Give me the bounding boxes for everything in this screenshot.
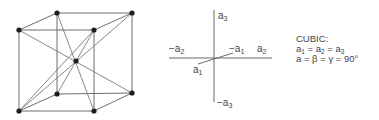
atom-front-top-right: [91, 27, 96, 32]
label-pos-a3: a3: [218, 10, 228, 22]
atom-front-top-left: [16, 27, 21, 32]
label-neg-a1: −a1: [229, 43, 244, 55]
axes-diagram: a3 −a3 −a2 a2 −a1 a1: [169, 10, 272, 109]
angle-equality: a = β = γ = 90°: [296, 54, 358, 64]
label-neg-a3: −a3: [217, 97, 232, 109]
cube-unit-cell: [16, 10, 134, 113]
label-neg-a2: −a2: [169, 43, 184, 55]
atom-back-top-left: [54, 10, 59, 15]
lattice-properties: CUBIC: a1 = a2 = a3 a = β = γ = 90°: [296, 34, 358, 64]
label-pos-a2: a2: [257, 43, 267, 55]
atom-front-bottom-left: [16, 108, 21, 113]
atom-back-top-right: [129, 10, 134, 15]
atom-back-bottom-right: [129, 90, 134, 95]
atom-body-center: [73, 58, 78, 63]
label-pos-a1: a1: [193, 64, 203, 76]
atom-back-bottom-left: [54, 91, 59, 96]
atom-front-bottom-right: [91, 108, 96, 113]
